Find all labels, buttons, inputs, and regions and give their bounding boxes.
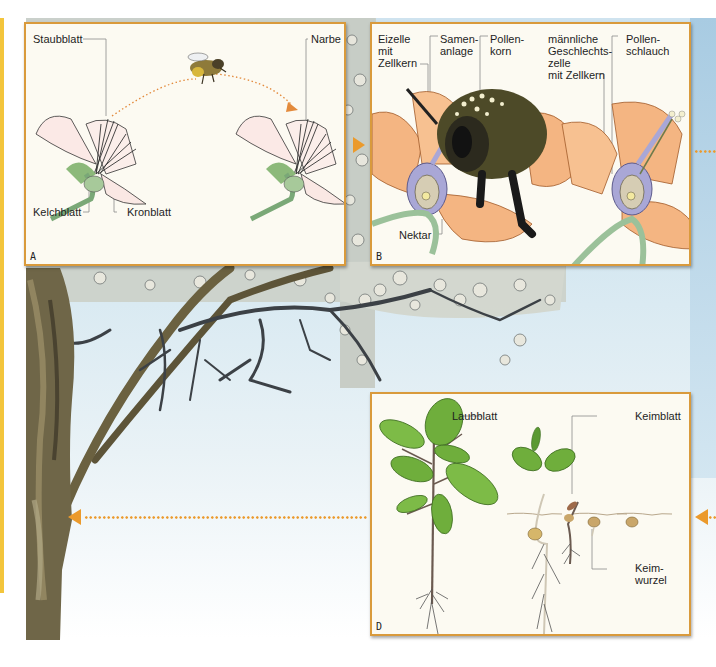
arrow-d-to-tree-icon [68,509,81,525]
dotted-connector-b-to-c [694,150,716,153]
seed-with-radicle-icon [588,517,600,527]
young-plant-icon [376,394,505,634]
label-eizelle-mit-zellkern: Eizelle mit Zellkern [378,33,417,69]
panel-letter-d: D [376,621,382,632]
panel-a-illustration [26,24,346,266]
panel-a-pollination: Staubblatt Narbe Kelchblatt Kronblatt A [24,22,346,266]
flight-path [112,79,196,116]
label-pollenkorn: Pollen- korn [490,33,524,57]
pollination-diagram-canvas: Staubblatt Narbe Kelchblatt Kronblatt A [0,0,716,667]
label-keimblatt: Keimblatt [635,410,681,422]
tree-trunk [26,268,74,640]
label-keimwurzel: Keim- wurzel [635,562,667,586]
label-kronblatt: Kronblatt [127,206,171,218]
label-laubblatt: Laubblatt [452,410,497,422]
panel-b-fertilization: Eizelle mit Zellkern Samen- anlage Polle… [370,22,691,266]
germinating-seed-icon [562,500,580,564]
label-kelchblatt: Kelchblatt [33,206,81,218]
label-pollenschlauch: Pollen- schlauch [626,33,669,57]
bee-icon [188,53,226,84]
label-samenanlage: Samen- anlage [440,33,479,57]
arrow-a-to-b-icon [353,137,365,153]
flower-left-icon [36,116,146,219]
dotted-connector-d-to-tree [84,516,368,519]
arrow-c-to-d-icon [695,509,708,525]
label-nektar: Nektar [399,229,431,241]
soil-line [507,513,672,515]
panel-letter-b: B [376,251,382,262]
panel-d-germination: Laubblatt Keimblatt Keim- wurzel D [370,392,691,636]
panel-letter-a: A [30,251,36,262]
seedling-icon [508,426,579,634]
panel-d-illustration [372,394,691,636]
seed-icon [626,517,638,527]
label-narbe: Narbe [311,33,341,45]
flower-right-icon [236,116,346,219]
dotted-connector-c-to-d [708,516,716,519]
label-maennliche-geschlechtszelle: männliche Geschlechts- zelle mit Zellker… [548,33,612,81]
label-staubblatt: Staubblatt [33,33,83,45]
